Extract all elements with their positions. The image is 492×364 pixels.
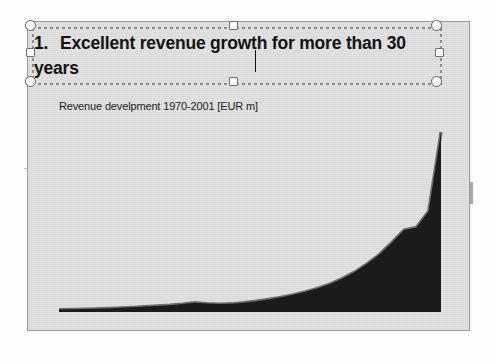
page-edge-tick-right [470,182,473,204]
handle-top-left[interactable] [25,20,36,31]
title-number: 1. [34,31,60,56]
subtitle-text: Revenue develpment 1970-2001 [EUR m] [59,100,258,112]
handle-top-center[interactable] [229,21,238,30]
slide-canvas[interactable]: 1.Excellent revenue growth for more than… [27,21,470,331]
title-text: 1.Excellent revenue growth for more than… [34,31,440,81]
chart-svg [36,122,464,318]
chart-series-area [59,132,441,312]
handle-bottom-right[interactable] [431,76,442,87]
text-cursor-caret [255,50,256,72]
handle-top-right[interactable] [431,20,442,31]
title-textbox[interactable]: 1.Excellent revenue growth for more than… [30,25,444,87]
application-root: 1.Excellent revenue growth for more than… [0,0,492,364]
handle-middle-left[interactable] [26,48,35,57]
title-heading: Excellent revenue growth for more than 3… [34,33,410,78]
handle-middle-right[interactable] [435,48,444,57]
handle-bottom-left[interactable] [25,76,36,87]
handle-bottom-center[interactable] [229,77,238,86]
revenue-area-chart[interactable] [36,122,464,318]
